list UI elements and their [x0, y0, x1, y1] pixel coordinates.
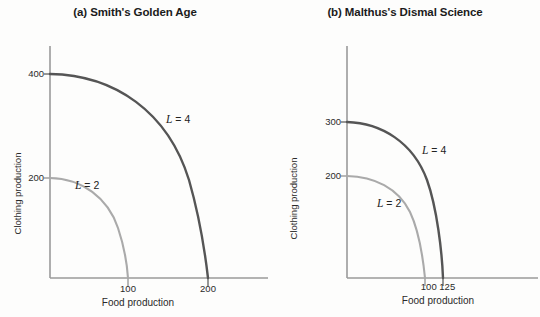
panel-b-plot	[270, 0, 540, 317]
panel-b-xtick-labels: 100 125	[403, 281, 473, 292]
panel-b-L4-symbol: L	[422, 144, 428, 156]
panel-a-L2-symbol: L	[75, 179, 81, 191]
panel-a-plot	[0, 0, 270, 317]
chart-panel-b: (b) Malthus's Dismal Science Clothing pr…	[270, 0, 540, 317]
panel-a-curve-L4	[50, 74, 208, 278]
panel-b-curve-label-L4: L = 4	[422, 144, 446, 156]
chart-panel-a: (a) Smith's Golden Age Clothing producti…	[0, 0, 270, 317]
panel-a-L4-symbol: L	[166, 113, 172, 125]
panel-b-curve-label-L2: L = 2	[377, 197, 401, 209]
panel-b-ytick-label-200: 200	[313, 170, 341, 181]
panel-b-L4-value: = 4	[431, 144, 446, 156]
panel-a-xtick-label-100: 100	[113, 283, 143, 294]
panel-b-curve-L2	[347, 176, 425, 278]
panel-a-L4-value: = 4	[175, 113, 190, 125]
panel-b-y-axis-title: Clothing production	[288, 151, 299, 247]
panel-a-ytick-label-200: 200	[16, 172, 44, 183]
panel-a-curve-label-L4: L = 4	[166, 113, 190, 125]
panel-a-y-axis-title: Clothing production	[12, 146, 23, 242]
figure-container: (a) Smith's Golden Age Clothing producti…	[0, 0, 540, 317]
panel-b-L2-value: = 2	[386, 197, 401, 209]
panel-a-x-axis-title: Food production	[68, 297, 208, 308]
panel-a-L2-value: = 2	[84, 179, 99, 191]
panel-b-ytick-label-300: 300	[313, 116, 341, 127]
panel-a-xtick-label-200: 200	[193, 283, 223, 294]
panel-a-curve-label-L2: L = 2	[75, 179, 99, 191]
panel-a-curve-L2	[50, 178, 128, 278]
panel-a-ytick-label-400: 400	[16, 68, 44, 79]
panel-b-x-axis-title: Food production	[388, 295, 488, 306]
panel-b-L2-symbol: L	[377, 197, 383, 209]
